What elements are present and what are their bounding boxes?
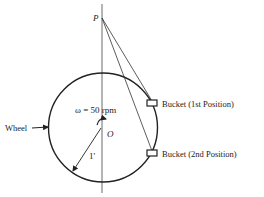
line-p-to-bucket1 [102, 18, 152, 101]
rotation-arrow-icon [97, 119, 106, 125]
wheel-bucket-diagram: P O ω = 50 rpm 1' Wheel Bucket (1st Posi… [0, 0, 264, 197]
bucket-2nd-position-icon [147, 150, 157, 156]
wheel-circle [49, 73, 158, 182]
radius-label: 1' [89, 151, 96, 161]
bucket-1st-position-label: Bucket (1st Position) [162, 99, 234, 109]
bucket-1st-position-icon [147, 100, 157, 106]
bucket-2nd-position-label: Bucket (2nd Position) [162, 149, 237, 159]
point-p-label: P [92, 13, 99, 23]
angular-velocity-label: ω = 50 rpm [75, 105, 116, 115]
wheel-pointer-arrow [32, 127, 48, 128]
wheel-label: Wheel [5, 123, 28, 133]
center-o-label: O [107, 129, 114, 139]
radius-arrow [73, 128, 101, 171]
